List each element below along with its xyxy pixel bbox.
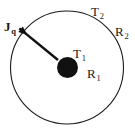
diagram-canvas [0,0,135,133]
outer-temperature-label: T2 [91,5,104,18]
heat-flux-label-symbol: J [4,19,11,34]
inner-temperature-label: T1 [73,47,86,60]
outer-temperature-label-subscript: 2 [100,11,104,21]
inner-radius-label: R1 [87,67,100,80]
inner-radius-label-symbol: R [87,66,96,81]
inner-temperature-label-subscript: 1 [82,53,86,63]
outer-temperature-label-symbol: T [91,4,99,19]
inner-radius-label-subscript: 1 [96,73,100,83]
outer-radius-label: R2 [115,25,128,38]
heat-flux-label-subscript: q [11,26,16,36]
heat-flux-label: Jq [4,20,16,33]
inner-temperature-label-symbol: T [73,46,81,61]
outer-radius-label-subscript: 2 [124,31,128,41]
heat-conduction-diagram: Jq T2 R2 T1 R1 [0,0,135,133]
outer-radius-label-symbol: R [115,24,124,39]
